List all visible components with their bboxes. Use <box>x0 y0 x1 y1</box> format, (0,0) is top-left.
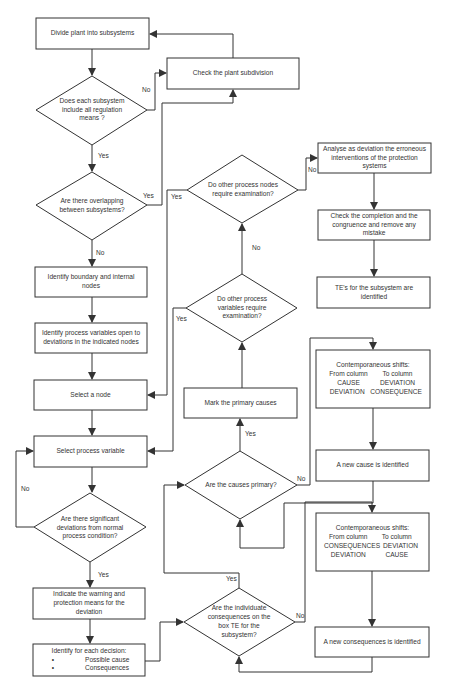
shift-row: DEVIATIONCONSEQUENCE <box>318 388 428 397</box>
bullet-icon: • <box>39 664 67 673</box>
edge-label-yes: Yes <box>143 192 154 199</box>
decision-overlapping-label: Are there overlapping between subsystems… <box>54 192 130 220</box>
shift-row: CONSEQUENCESDEVIATION <box>318 542 427 551</box>
decision-regulation-means-label: Does each subsystem include all regulati… <box>56 90 128 130</box>
from-cell: DEVIATION <box>324 551 373 560</box>
to-cell: DEVIATION <box>380 542 421 551</box>
from-cell: CAUSE <box>324 379 373 388</box>
edge-label-no: No <box>96 249 104 256</box>
edge-label-yes: Yes <box>98 152 109 159</box>
edge-label-no: No <box>142 86 150 93</box>
shift-title: Contemporaneous shifts: <box>336 524 409 533</box>
edge-label-no: No <box>21 485 29 492</box>
decision-other-variables-label: Do other process variables require exami… <box>202 294 282 322</box>
decision-other-nodes-label: Do other process nodes require examinati… <box>206 176 280 204</box>
box-check-completion-label: Check the completion and the congruence … <box>322 210 426 240</box>
edge-label-yes: Yes <box>171 193 182 200</box>
box-identify-nodes-label: Identify boundary and internal nodes <box>40 267 142 297</box>
to-column-header: To column <box>373 370 422 379</box>
box-identify-variables-label: Identify process variables open to devia… <box>37 323 145 353</box>
box-check-subdivision-label: Check the plant subdivision <box>167 58 299 89</box>
decision-individuate-consequences-label: Are the individuate consequences on the … <box>200 603 278 641</box>
shift-header-row: From columnTo column <box>318 370 428 379</box>
from-column-header: From column <box>324 533 373 542</box>
from-cell: DEVIATION <box>324 388 370 397</box>
shift-row: CAUSEDEVIATION <box>318 379 428 388</box>
box-new-consequence-label: A new consequences is identified <box>315 627 429 657</box>
to-cell: CAUSE <box>373 551 422 560</box>
shift-title: Contemporaneous shifts: <box>336 361 409 370</box>
identify-decision-title: Identify for each decision: <box>52 647 127 656</box>
box-shift-consequences-label: Contemporaneous shifts: From columnTo co… <box>316 513 429 571</box>
from-cell: CONSEQUENCES <box>324 542 380 551</box>
edge-label-no: No <box>296 612 304 619</box>
decision-significant-deviations-label: Are there significant deviations from no… <box>54 509 126 547</box>
box-mark-primary-label: Mark the primary causes <box>184 388 297 418</box>
decision-causes-primary-label: Are the causes primary? <box>200 475 282 495</box>
box-new-cause-label: A new cause is identified <box>316 450 429 481</box>
box-identify-decision-label: Identify for each decision: •Possible ca… <box>33 644 145 676</box>
bullet-icon: • <box>39 656 67 665</box>
edge-label-yes: Yes <box>98 571 109 578</box>
to-cell: DEVIATION <box>373 379 422 388</box>
box-indicate-warning-label: Indicate the warning and protection mean… <box>40 588 138 619</box>
bullet-item: •Consequences <box>35 664 143 673</box>
bullet-text: Consequences <box>67 664 143 673</box>
edge-label-yes: Yes <box>176 315 187 322</box>
from-column-header: From column <box>324 370 373 379</box>
edge-label-yes: Yes <box>245 430 256 437</box>
to-cell: CONSEQUENCE <box>370 388 422 397</box>
bullet-text: Possible cause <box>67 656 143 665</box>
shift-header-row: From columnTo column <box>318 533 427 542</box>
shift-row: DEVIATIONCAUSE <box>318 551 427 560</box>
edge-label-no: No <box>252 244 260 251</box>
edge-label-no: No <box>308 166 316 173</box>
box-select-node-label: Select a node <box>34 380 147 410</box>
box-shift-causes-label: Contemporaneous shifts: From columnTo co… <box>316 350 430 408</box>
box-divide-label: Divide plant into subsystems <box>36 18 149 49</box>
box-select-variable-label: Select process variable <box>34 436 147 467</box>
to-column-header: To column <box>373 533 422 542</box>
bullet-item: •Possible cause <box>35 656 143 665</box>
edge-label-no: No <box>297 475 305 482</box>
edge-label-yes: Yes <box>226 575 237 582</box>
box-analyse-label: Analyse as deviation the erroneous inter… <box>320 143 429 173</box>
box-te-identified-label: TE's for the subsystem are identified <box>330 277 418 308</box>
